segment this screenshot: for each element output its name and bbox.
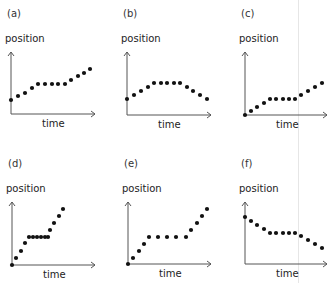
data-point — [243, 215, 247, 219]
data-point — [9, 98, 13, 102]
data-point — [48, 228, 52, 232]
data-point — [249, 219, 253, 223]
data-point — [293, 231, 297, 235]
data-point — [16, 94, 20, 98]
data-point — [82, 71, 86, 75]
axes — [9, 202, 95, 268]
data-point — [10, 263, 14, 267]
data-point — [156, 235, 160, 239]
data-point — [69, 78, 73, 82]
data-point — [63, 82, 67, 86]
data-point — [320, 246, 324, 250]
data-point — [165, 235, 169, 239]
data-point — [205, 207, 209, 211]
data-point — [268, 97, 272, 101]
axes — [242, 202, 327, 267]
plot-a — [8, 52, 95, 117]
data-point — [19, 249, 23, 253]
data-point — [274, 231, 278, 235]
data-point — [262, 227, 266, 231]
data-point — [184, 235, 188, 239]
data-point — [35, 235, 39, 239]
data-point — [137, 249, 141, 253]
data-point — [52, 221, 56, 225]
axes — [242, 52, 327, 118]
data-point — [172, 81, 176, 85]
data-point — [43, 82, 47, 86]
plot-e — [125, 202, 211, 267]
data-point — [198, 93, 202, 97]
data-point — [39, 235, 43, 239]
data-point — [14, 256, 18, 260]
data-point — [152, 81, 156, 85]
data-point — [76, 74, 80, 78]
data-point — [299, 93, 303, 97]
data-point — [255, 223, 259, 227]
data-point — [313, 85, 317, 89]
data-point — [195, 221, 199, 225]
plots-layer — [0, 0, 327, 283]
data-point — [306, 238, 310, 242]
plot-b — [124, 52, 211, 118]
data-point — [56, 82, 60, 86]
data-point — [191, 89, 195, 93]
data-point — [31, 235, 35, 239]
data-point — [255, 105, 259, 109]
data-point — [30, 86, 34, 90]
data-point — [147, 235, 151, 239]
data-point — [23, 241, 27, 245]
data-point — [131, 256, 135, 260]
data-point — [125, 97, 129, 101]
plot-f — [242, 202, 327, 267]
data-point — [174, 235, 178, 239]
data-point — [274, 97, 278, 101]
data-point — [293, 97, 297, 101]
data-point — [200, 214, 204, 218]
data-point — [189, 228, 193, 232]
data-point — [262, 101, 266, 105]
axes — [125, 202, 211, 267]
data-point — [46, 235, 50, 239]
data-point — [50, 82, 54, 86]
data-point — [165, 81, 169, 85]
data-point — [205, 97, 209, 101]
data-point — [132, 93, 136, 97]
data-point — [243, 113, 247, 117]
data-point — [23, 91, 27, 95]
data-point — [146, 85, 150, 89]
data-point — [57, 214, 61, 218]
data-point — [185, 85, 189, 89]
data-point — [299, 234, 303, 238]
data-point — [88, 67, 92, 71]
data-point — [27, 235, 31, 239]
data-point — [306, 89, 310, 93]
data-point — [320, 81, 324, 85]
data-point — [139, 89, 143, 93]
data-point — [126, 262, 130, 266]
data-point — [142, 242, 146, 246]
data-point — [313, 242, 317, 246]
data-point — [178, 81, 182, 85]
data-point — [268, 231, 272, 235]
data-point — [249, 109, 253, 113]
data-point — [281, 97, 285, 101]
data-point — [61, 207, 65, 211]
data-point — [159, 81, 163, 85]
data-point — [287, 231, 291, 235]
data-point — [36, 82, 40, 86]
data-point — [287, 97, 291, 101]
data-point — [281, 231, 285, 235]
plot-c — [242, 52, 327, 118]
plot-d — [9, 202, 95, 268]
